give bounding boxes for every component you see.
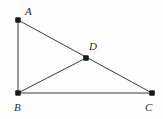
geometry-canvas: A B C D — [0, 0, 163, 119]
vertex-label-a: A — [24, 5, 32, 17]
geometry-figure: A B C D — [0, 0, 163, 119]
vertex-label-d: D — [88, 40, 97, 52]
segment-bd — [18, 58, 86, 93]
vertex-dot-b — [15, 90, 21, 96]
vertex-dot-c — [149, 90, 155, 96]
vertex-dot-d — [83, 55, 89, 61]
vertex-label-c: C — [145, 101, 153, 113]
vertex-dot-a — [15, 17, 21, 23]
vertex-label-b: B — [14, 101, 21, 113]
